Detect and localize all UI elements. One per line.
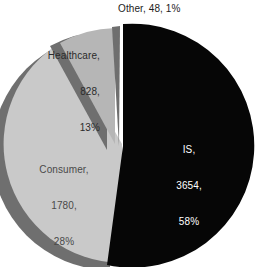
slice-label-healthcare: Healthcare, 828, 13% bbox=[24, 26, 100, 158]
consumer-label-name: Consumer, bbox=[26, 164, 102, 176]
pie-chart: Other, 48, 1% Healthcare, 828, 13% Consu… bbox=[0, 0, 256, 267]
is-label-value: 3654, bbox=[160, 180, 218, 192]
is-label-name: IS, bbox=[160, 144, 218, 156]
consumer-label-percent: 28% bbox=[26, 236, 102, 248]
healthcare-label-value: 828, bbox=[24, 86, 100, 98]
is-label-percent: 58% bbox=[160, 216, 218, 228]
healthcare-label-name: Healthcare, bbox=[24, 50, 100, 62]
slice-label-other: Other, 48, 1% bbox=[118, 3, 180, 15]
slice-label-consumer: Consumer, 1780, 28% bbox=[26, 140, 102, 267]
slice-label-is: IS, 3654, 58% bbox=[160, 120, 218, 252]
healthcare-label-percent: 13% bbox=[24, 122, 100, 134]
consumer-label-value: 1780, bbox=[26, 200, 102, 212]
